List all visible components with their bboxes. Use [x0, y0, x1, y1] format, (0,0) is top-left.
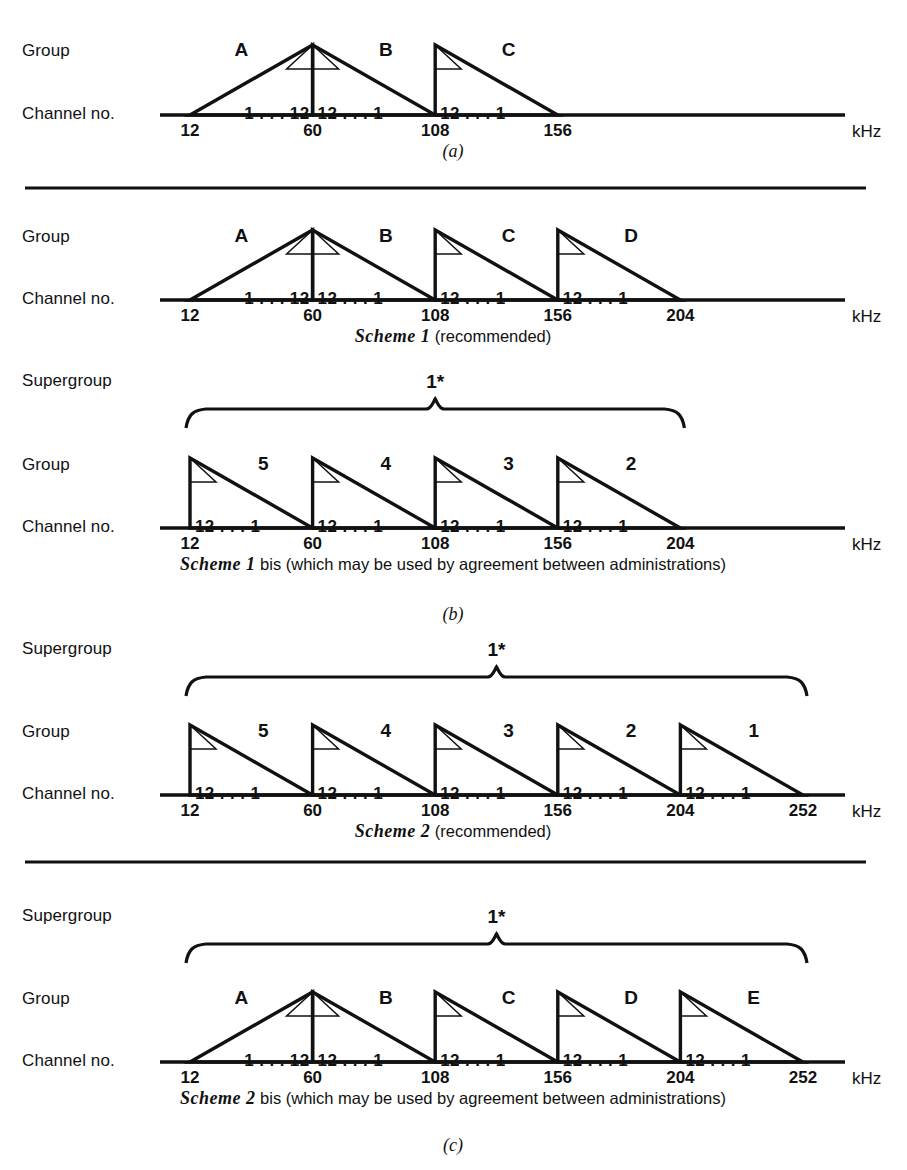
supergroup-label-b2: 1* — [426, 372, 444, 391]
group-name-a-A: A — [234, 40, 248, 59]
channel-range-c1-4: 12 . . . 1 — [318, 785, 383, 802]
axis-unit-a: kHz — [852, 123, 881, 140]
caption-qualifier: (recommended) — [430, 822, 551, 840]
caption-scheme-name: Scheme 2 — [180, 1088, 256, 1108]
caption-qualifier: (recommended) — [430, 327, 551, 345]
axis-tick-b1-12: 12 — [181, 307, 200, 324]
channel-range-c2-A: 1 . . . 12 — [244, 1052, 309, 1069]
axis-tick-a-60: 60 — [303, 122, 322, 139]
axis-tick-b1-156: 156 — [544, 307, 572, 324]
axis-tick-c2-156: 156 — [544, 1069, 572, 1086]
group-name-c1-4: 4 — [381, 721, 392, 740]
row-label-supergroup-c1: Supergroup — [22, 640, 112, 657]
channel-range-a-C: 12 . . . 1 — [440, 105, 505, 122]
row-label-supergroup-b2: Supergroup — [22, 372, 112, 389]
channel-range-c1-1: 12 . . . 1 — [685, 785, 750, 802]
axis-tick-b1-204: 204 — [666, 307, 694, 324]
axis-tick-c2-252: 252 — [789, 1069, 817, 1086]
fdm-allocation-figure: GroupChannel no.A1 . . . 12B12 . . . 1C1… — [0, 0, 907, 1170]
supergroup-brace-c2 — [186, 934, 807, 963]
axis-tick-b2-60: 60 — [303, 535, 322, 552]
group-name-a-C: C — [502, 40, 516, 59]
caption-qualifier: bis (which may be used by agreement betw… — [256, 555, 726, 573]
channel-range-c1-5: 12 . . . 1 — [195, 785, 260, 802]
axis-tick-c2-108: 108 — [421, 1069, 449, 1086]
group-name-c2-C: C — [502, 988, 516, 1007]
group-name-b2-3: 3 — [503, 454, 514, 473]
axis-tick-c1-12: 12 — [181, 802, 200, 819]
axis-tick-b2-204: 204 — [666, 535, 694, 552]
caption-scheme-name: Scheme 1 — [355, 326, 431, 346]
panel-letter-c2: (c) — [443, 1136, 463, 1154]
channel-range-b1-D: 12 . . . 1 — [563, 290, 628, 307]
group-name-c2-E: E — [747, 988, 760, 1007]
channel-range-c2-C: 12 . . . 1 — [440, 1052, 505, 1069]
panel-caption-b1: Scheme 1 (recommended) — [355, 327, 552, 345]
channel-range-b1-C: 12 . . . 1 — [440, 290, 505, 307]
axis-unit-b2: kHz — [852, 536, 881, 553]
row-label-channel-a: Channel no. — [22, 105, 115, 122]
axis-unit-b1: kHz — [852, 308, 881, 325]
group-name-b1-C: C — [502, 226, 516, 245]
axis-tick-b1-60: 60 — [303, 307, 322, 324]
channel-range-c1-2: 12 . . . 1 — [563, 785, 628, 802]
supergroup-label-c1: 1* — [488, 640, 506, 659]
group-name-b2-2: 2 — [626, 454, 637, 473]
group-name-b1-D: D — [624, 226, 638, 245]
channel-range-b2-3: 12 . . . 1 — [440, 518, 505, 535]
channel-range-b1-B: 12 . . . 1 — [318, 290, 383, 307]
group-name-b2-4: 4 — [381, 454, 392, 473]
channel-range-b2-4: 12 . . . 1 — [318, 518, 383, 535]
axis-tick-c2-60: 60 — [303, 1069, 322, 1086]
group-name-c1-5: 5 — [258, 721, 269, 740]
axis-tick-a-108: 108 — [421, 122, 449, 139]
row-label-supergroup-c2: Supergroup — [22, 907, 112, 924]
channel-range-b2-2: 12 . . . 1 — [563, 518, 628, 535]
group-name-b1-B: B — [379, 226, 393, 245]
channel-range-b1-A: 1 . . . 12 — [244, 290, 309, 307]
channel-range-c1-3: 12 . . . 1 — [440, 785, 505, 802]
axis-tick-c1-108: 108 — [421, 802, 449, 819]
group-name-c2-D: D — [624, 988, 638, 1007]
panel-caption-c1: Scheme 2 (recommended) — [355, 822, 552, 840]
row-label-group-b2: Group — [22, 456, 70, 473]
group-name-c1-2: 2 — [626, 721, 637, 740]
panel-caption-b2: Scheme 1 bis (which may be used by agree… — [180, 555, 726, 573]
row-label-group-c2: Group — [22, 990, 70, 1007]
group-name-b2-5: 5 — [258, 454, 269, 473]
group-name-c2-A: A — [234, 988, 248, 1007]
axis-tick-c2-12: 12 — [181, 1069, 200, 1086]
axis-tick-a-12: 12 — [181, 122, 200, 139]
row-label-channel-c1: Channel no. — [22, 785, 115, 802]
panel-letter-b2: (b) — [443, 605, 464, 623]
diagram-canvas — [0, 0, 907, 1170]
channel-range-c2-B: 12 . . . 1 — [318, 1052, 383, 1069]
group-name-a-B: B — [379, 40, 393, 59]
axis-tick-b2-108: 108 — [421, 535, 449, 552]
axis-tick-c2-204: 204 — [666, 1069, 694, 1086]
row-label-group-c1: Group — [22, 723, 70, 740]
supergroup-brace-b2 — [186, 399, 684, 428]
caption-scheme-name: Scheme 1 — [180, 554, 256, 574]
axis-tick-c1-156: 156 — [544, 802, 572, 819]
panel-caption-c2: Scheme 2 bis (which may be used by agree… — [180, 1089, 726, 1107]
row-label-group-a: Group — [22, 42, 70, 59]
caption-qualifier: bis (which may be used by agreement betw… — [256, 1089, 726, 1107]
channel-range-c2-D: 12 . . . 1 — [563, 1052, 628, 1069]
panel-letter-a: (a) — [443, 142, 464, 160]
axis-tick-a-156: 156 — [544, 122, 572, 139]
axis-tick-c1-60: 60 — [303, 802, 322, 819]
row-label-channel-b2: Channel no. — [22, 518, 115, 535]
group-name-c1-1: 1 — [748, 721, 759, 740]
channel-range-b2-5: 12 . . . 1 — [195, 518, 260, 535]
supergroup-brace-c1 — [186, 667, 807, 696]
channel-range-a-A: 1 . . . 12 — [244, 105, 309, 122]
row-label-group-b1: Group — [22, 228, 70, 245]
axis-unit-c2: kHz — [852, 1070, 881, 1087]
supergroup-label-c2: 1* — [488, 907, 506, 926]
group-name-c1-3: 3 — [503, 721, 514, 740]
group-name-b1-A: A — [234, 226, 248, 245]
row-label-channel-b1: Channel no. — [22, 290, 115, 307]
axis-tick-b2-156: 156 — [544, 535, 572, 552]
axis-unit-c1: kHz — [852, 803, 881, 820]
